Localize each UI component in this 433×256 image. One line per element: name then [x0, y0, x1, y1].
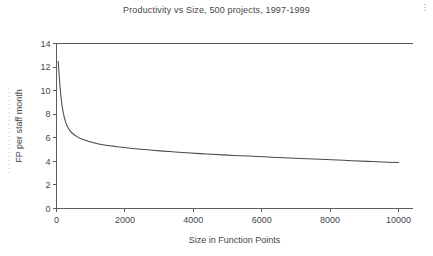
y-tick-label: 14	[40, 39, 50, 49]
y-tick-label: 10	[40, 86, 50, 96]
x-tick-label: 2000	[115, 215, 135, 225]
y-axis-title: FP per staff month	[14, 89, 24, 163]
x-tick-label: 8000	[320, 215, 340, 225]
plot-area: 024681012140200040006000800010000Size in…	[0, 0, 433, 256]
y-tick-label: 4	[45, 157, 50, 167]
chart-figure: Productivity vs Size, 500 projects, 1997…	[0, 0, 433, 256]
x-tick-label: 6000	[252, 215, 272, 225]
x-tick-label: 4000	[183, 215, 203, 225]
x-tick-label: 10000	[386, 215, 411, 225]
y-tick-label: 2	[45, 180, 50, 190]
x-tick-label: 0	[54, 215, 59, 225]
y-tick-label: 8	[45, 109, 50, 119]
series-line-0	[58, 61, 398, 162]
y-tick-label: 0	[45, 204, 50, 214]
x-axis-title: Size in Function Points	[189, 235, 281, 245]
y-tick-label: 6	[45, 133, 50, 143]
y-tick-label: 12	[40, 62, 50, 72]
